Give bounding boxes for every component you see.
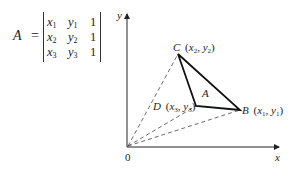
y-axis-label: y <box>116 9 122 21</box>
x-axis-label: x <box>274 151 280 163</box>
triangle-area-label: A <box>201 87 209 99</box>
point-c-label: C (x2, y2) <box>173 41 215 55</box>
dashed-line-origin-to-b <box>128 110 240 146</box>
origin-label: 0 <box>125 151 131 163</box>
point-b-label: B (x1, y1) <box>242 104 283 118</box>
triangle-diagram: y x 0 A C (x2, y2) D (x3, y3) B (x1, y1) <box>0 0 297 170</box>
point-d-label: D (x3, y3) <box>152 100 196 114</box>
dashed-line-origin-to-d <box>128 106 196 146</box>
